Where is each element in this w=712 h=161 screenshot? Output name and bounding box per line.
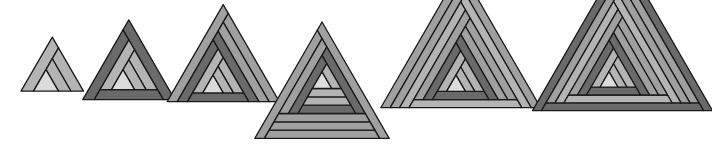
figure-6 [533, 0, 712, 111]
strip-3 [303, 97, 351, 105]
diagram-canvas [0, 0, 712, 161]
strip-10 [409, 100, 522, 108]
figure-5 [381, 0, 541, 108]
strip-4 [587, 87, 641, 95]
strip-2 [308, 89, 346, 97]
strip-4 [433, 91, 489, 99]
figure-3 [167, 5, 279, 102]
strip-4 [94, 90, 163, 100]
figure-1 [21, 37, 84, 91]
strip-4 [298, 105, 356, 113]
log-cabin-diagram [0, 0, 712, 161]
strip-10 [564, 95, 672, 103]
strip-10 [264, 130, 379, 138]
figure-4 [255, 22, 389, 138]
strip-4 [188, 93, 249, 102]
strip-9 [269, 122, 375, 130]
figure-2 [83, 20, 175, 100]
strip-16 [542, 103, 704, 111]
strip-8 [274, 114, 370, 122]
